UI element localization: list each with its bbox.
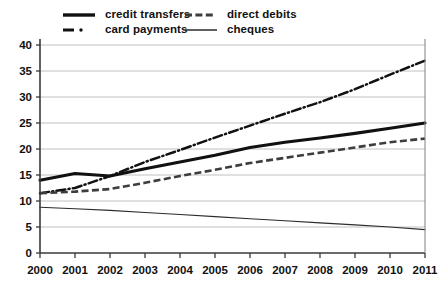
x-tick-label: 2000 xyxy=(27,264,53,276)
legend-swatch-solid-thin-icon xyxy=(184,24,218,36)
x-tick-label: 2010 xyxy=(377,264,403,276)
legend-item-credit-transfers: credit transfers xyxy=(62,9,190,21)
legend-swatch-solid-thick-icon xyxy=(62,9,96,21)
series-line-card-payments xyxy=(40,61,425,194)
legend-label-card-payments: card payments xyxy=(105,24,187,36)
y-tick-label: 30 xyxy=(19,91,32,103)
series-line-direct-debits xyxy=(40,139,425,194)
x-tick-label: 2001 xyxy=(62,264,88,276)
chart-legend: credit transfers card payments direct de… xyxy=(0,0,445,40)
y-tick-label: 15 xyxy=(19,169,32,181)
legend-item-direct-debits: direct debits xyxy=(184,9,297,21)
y-tick-label: 25 xyxy=(19,117,32,129)
legend-swatch-dashed-icon xyxy=(184,9,218,21)
legend-item-card-payments: card payments xyxy=(62,24,187,36)
y-tick-label: 20 xyxy=(19,143,32,155)
x-tick-label: 2007 xyxy=(272,264,298,276)
line-chart: credit transfers card payments direct de… xyxy=(0,0,445,284)
x-tick-label: 2006 xyxy=(237,264,263,276)
x-tick-label: 2002 xyxy=(97,264,123,276)
x-axis-labels: 2000200120022003200420052006200720082009… xyxy=(27,264,438,276)
legend-label-credit-transfers: credit transfers xyxy=(105,9,190,21)
x-tick-label: 2011 xyxy=(413,264,439,276)
x-tick-label: 2005 xyxy=(202,264,228,276)
legend-label-cheques: cheques xyxy=(227,24,274,36)
y-tick-label: 35 xyxy=(19,65,32,77)
x-tick-label: 2003 xyxy=(132,264,158,276)
y-axis-labels: 0510152025303540 xyxy=(19,39,32,259)
legend-item-cheques: cheques xyxy=(184,24,274,36)
x-tick-label: 2004 xyxy=(167,264,193,276)
legend-swatch-dash-dot-icon xyxy=(62,24,96,36)
plot-area: 0510152025303540 20002001200220032004200… xyxy=(0,38,445,284)
y-tick-label: 0 xyxy=(26,247,32,259)
y-tick-label: 5 xyxy=(26,221,33,233)
y-tick-label: 40 xyxy=(19,39,32,51)
x-tick-label: 2009 xyxy=(342,264,368,276)
series-line-cheques xyxy=(40,207,425,229)
y-tick-label: 10 xyxy=(19,195,32,207)
data-series xyxy=(40,61,425,230)
gridlines xyxy=(40,45,425,227)
legend-label-direct-debits: direct debits xyxy=(227,9,297,21)
x-tick-label: 2008 xyxy=(307,264,333,276)
